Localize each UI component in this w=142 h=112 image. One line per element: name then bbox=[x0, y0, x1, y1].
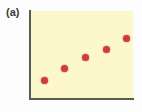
data-point bbox=[123, 35, 130, 42]
y-axis-line bbox=[29, 10, 31, 100]
plot-area bbox=[31, 11, 133, 99]
data-point bbox=[82, 54, 89, 61]
data-point bbox=[61, 65, 68, 72]
scatter-plot-figure: (a) bbox=[0, 0, 142, 112]
data-point bbox=[103, 46, 110, 53]
x-axis-line bbox=[29, 98, 134, 100]
panel-label: (a) bbox=[6, 6, 19, 19]
data-point bbox=[41, 77, 48, 84]
